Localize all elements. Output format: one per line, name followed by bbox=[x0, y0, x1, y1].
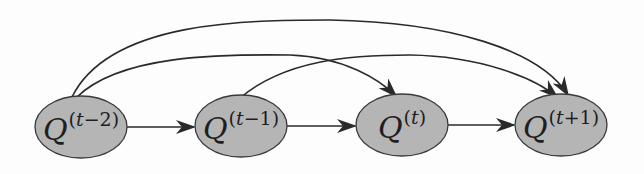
diagram-canvas: Q(t−2) Q(t−1) Q(t) Q(t+1) bbox=[0, 0, 644, 174]
node-label-tminus2: Q(t−2) bbox=[43, 110, 119, 145]
node-label-tplus1: Q(t+1) bbox=[523, 108, 599, 143]
edge-arc-tminus1-to-tplus1 bbox=[240, 55, 557, 98]
node-symbol: Q bbox=[378, 113, 403, 143]
node-symbol: Q bbox=[203, 114, 228, 144]
node-superscript: (t−2) bbox=[69, 110, 119, 129]
node-symbol: Q bbox=[523, 113, 548, 143]
node-superscript: (t+1) bbox=[549, 108, 599, 127]
node-label-tminus1: Q(t−1) bbox=[203, 109, 279, 144]
node-superscript: (t) bbox=[404, 108, 426, 127]
node-symbol: Q bbox=[43, 115, 68, 145]
edge-arc-tminus2-to-t bbox=[77, 55, 396, 97]
graph-svg bbox=[0, 0, 644, 174]
node-superscript: (t−1) bbox=[229, 109, 279, 128]
node-label-t: Q(t) bbox=[378, 108, 426, 143]
